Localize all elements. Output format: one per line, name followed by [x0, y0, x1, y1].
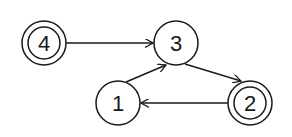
node-3: 3 — [154, 21, 198, 65]
node-4: 4 — [22, 21, 66, 65]
state-diagram: 4 3 1 2 — [0, 0, 292, 137]
edge-1-to-3 — [126, 65, 166, 82]
node-2-label: 2 — [244, 91, 256, 116]
edge-3-to-2 — [185, 64, 241, 81]
node-3-label: 3 — [170, 31, 182, 56]
node-4-label: 4 — [38, 31, 50, 56]
node-1-label: 1 — [112, 91, 124, 116]
diagram-svg: 4 3 1 2 — [0, 0, 292, 137]
edges — [66, 43, 241, 103]
node-2: 2 — [228, 81, 272, 125]
node-1: 1 — [96, 81, 140, 125]
